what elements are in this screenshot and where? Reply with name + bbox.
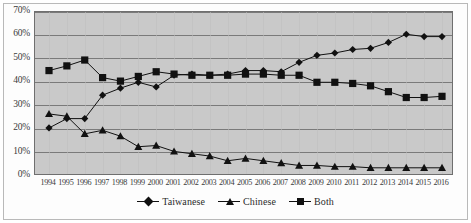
y-tick-label: 70%: [0, 6, 30, 15]
chart-figure: 0%10%20%30%40%50%60%70% 1994199519961997…: [0, 0, 471, 223]
legend-item-chinese[interactable]: Chinese: [218, 196, 276, 207]
legend-label: Chinese: [243, 196, 276, 207]
y-tick-label: 50%: [0, 53, 30, 62]
legend-label: Both: [314, 196, 334, 207]
legend-label: Taiwanese: [162, 196, 205, 207]
x-tick-label: 2016: [427, 178, 455, 187]
y-axis-labels: 0%10%20%30%40%50%60%70%: [0, 11, 471, 175]
y-tick-label: 30%: [0, 100, 30, 109]
y-tick-label: 60%: [0, 29, 30, 38]
legend-item-both[interactable]: Both: [289, 196, 334, 207]
diamond-marker-icon: [137, 197, 159, 206]
square-marker-icon: [289, 197, 311, 206]
chart-legend: TaiwaneseChineseBoth: [0, 196, 471, 207]
y-tick-label: 0%: [0, 170, 30, 179]
legend-item-taiwanese[interactable]: Taiwanese: [137, 196, 205, 207]
y-tick-label: 10%: [0, 147, 30, 156]
y-tick-label: 40%: [0, 76, 30, 85]
triangle-marker-icon: [218, 197, 240, 206]
y-tick-label: 20%: [0, 123, 30, 132]
x-axis-labels: 1994199519961997199819992000200120022003…: [34, 178, 453, 192]
